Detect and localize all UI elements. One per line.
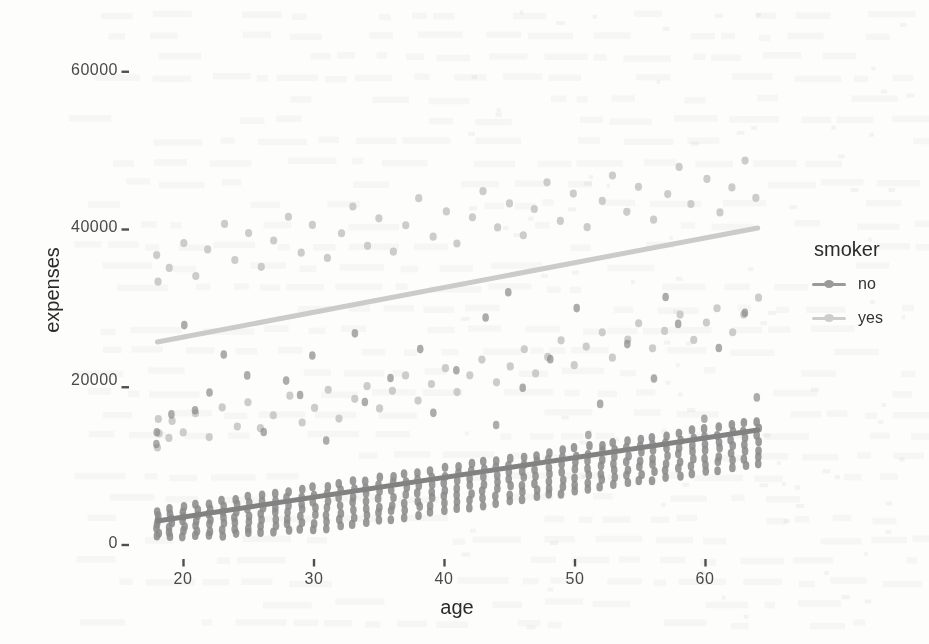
legend-entry-no: no	[812, 275, 883, 293]
y-tick-label-20000: 20000	[36, 371, 118, 389]
y-tick-label-40000: 40000	[36, 218, 118, 236]
y-tick-label-0: 0	[36, 534, 118, 552]
x-tick-label-60: 60	[683, 570, 727, 588]
x-tick-label-40: 40	[422, 570, 466, 588]
x-tick-label-30: 30	[292, 570, 336, 588]
x-tick-label-20: 20	[161, 570, 205, 588]
scatter-plot-canvas	[0, 0, 929, 644]
axis-tick-marks	[122, 72, 706, 567]
points-smoker-yes	[153, 156, 762, 451]
legend-key-yes-icon	[812, 311, 846, 325]
legend-label-no: no	[858, 275, 876, 293]
y-tick-label-60000: 60000	[36, 61, 118, 79]
x-axis-title: age	[440, 596, 473, 619]
x-tick-label-50: 50	[553, 570, 597, 588]
legend-title: smoker	[814, 238, 883, 261]
legend-entry-yes: yes	[812, 309, 883, 327]
legend: smoker no yes	[812, 238, 883, 343]
legend-label-yes: yes	[858, 309, 883, 327]
legend-key-no-icon	[812, 277, 846, 291]
y-axis-title: expenses	[41, 247, 64, 333]
